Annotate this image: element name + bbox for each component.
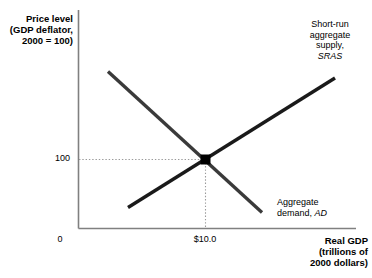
sras-label-line-2: aggregate xyxy=(310,30,351,40)
x-axis-title-line-2: (trillions of xyxy=(319,246,368,257)
equilibrium-point-marker xyxy=(201,155,211,165)
y-axis-title: Price level(GDP deflator,2000 = 100) xyxy=(2,13,73,47)
x-axis-title-line-1: Real GDP xyxy=(325,235,368,246)
sras-label-line-3: supply, xyxy=(316,40,344,50)
y-axis-title-line-3: 2000 = 100) xyxy=(22,35,73,46)
aggregate-demand-supply-chart: Price level(GDP deflator,2000 = 100) Rea… xyxy=(0,0,372,278)
aggregate-demand-curve xyxy=(108,72,262,213)
ad-curve-label: Aggregatedemand, AD xyxy=(277,197,369,218)
x-axis-title: Real GDP(trillions of2000 dollars) xyxy=(265,235,368,269)
x-tick-label-equilibrium: $10.0 xyxy=(178,234,232,245)
sras-curve-label: Short-runaggregatesupply,SRAS xyxy=(290,19,370,61)
sras-label-abbrev: SRAS xyxy=(318,51,343,61)
ad-label-line-2: demand, xyxy=(277,208,315,218)
ad-label-abbrev: AD xyxy=(315,208,328,218)
origin-label: 0 xyxy=(50,234,70,245)
x-axis-title-line-3: 2000 dollars) xyxy=(310,257,368,268)
y-tick-label-100: 100 xyxy=(36,153,70,164)
sras-label-line-1: Short-run xyxy=(311,19,349,29)
sras-curve xyxy=(128,78,335,208)
ad-label-line-1: Aggregate xyxy=(277,197,319,207)
y-axis-title-line-2: (GDP deflator, xyxy=(10,24,73,35)
y-axis-title-line-1: Price level xyxy=(26,13,73,24)
